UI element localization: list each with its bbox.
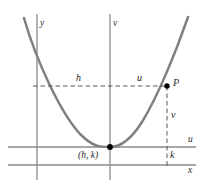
- vertex-marker: [107, 144, 113, 150]
- figure-canvas: [0, 0, 204, 191]
- dashed-guides: [33, 86, 167, 166]
- v-segment-label: v: [171, 110, 175, 120]
- v-axis-label: v: [113, 19, 117, 29]
- plotted-points: [107, 83, 170, 150]
- vertex-label: (h, k): [78, 151, 98, 161]
- parabola-translation-figure: y v u x h u v k P (h, k): [0, 0, 204, 191]
- u-axis-label: u: [188, 135, 193, 145]
- point-p-label: P: [173, 78, 179, 88]
- axis-lines: [8, 14, 196, 180]
- point-p-marker: [164, 83, 169, 88]
- parabola-curve-group: [24, 17, 188, 147]
- h-segment-label: h: [76, 73, 81, 83]
- parabola-curve: [24, 17, 188, 147]
- x-axis-label: x: [188, 166, 192, 176]
- k-segment-label: k: [170, 150, 174, 160]
- u-segment-label: u: [137, 73, 142, 83]
- y-axis-label: y: [40, 19, 44, 29]
